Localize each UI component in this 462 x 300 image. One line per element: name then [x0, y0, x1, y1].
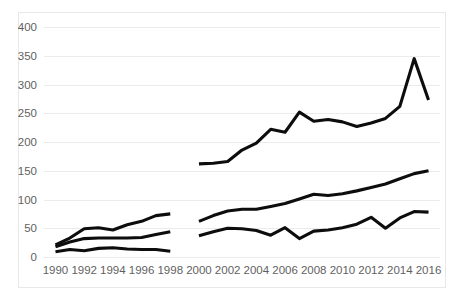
x-tick-label-2000: 2000: [186, 264, 212, 276]
x-tick-label-2006: 2006: [272, 264, 298, 276]
series-top-segment-2000-2016: [199, 59, 429, 164]
y-tick-label-0: 0: [31, 251, 37, 263]
x-axis-tick-labels: 1990199219941996199820002002200420062008…: [43, 264, 442, 276]
series-bottom-segment-1990-1998: [55, 248, 170, 252]
y-tick-label-150: 150: [18, 165, 37, 177]
x-tick-label-2008: 2008: [301, 264, 327, 276]
x-tick-label-2010: 2010: [330, 264, 356, 276]
y-axis-tick-labels: 050100150200250300350400: [18, 21, 37, 263]
x-tick-label-1998: 1998: [157, 264, 183, 276]
x-tick-label-1992: 1992: [71, 264, 97, 276]
x-tick-label-2004: 2004: [244, 264, 270, 276]
x-tick-label-1996: 1996: [129, 264, 155, 276]
line-chart: 050100150200250300350400 199019921994199…: [0, 0, 462, 300]
y-tick-label-200: 200: [18, 136, 37, 148]
y-tick-label-100: 100: [18, 194, 37, 206]
chart-container: 050100150200250300350400 199019921994199…: [0, 0, 462, 300]
y-tick-label-300: 300: [18, 79, 37, 91]
x-tick-label-1990: 1990: [43, 264, 69, 276]
y-tick-label-350: 350: [18, 50, 37, 62]
x-tick-label-1994: 1994: [100, 264, 126, 276]
series-lines: [55, 59, 428, 252]
x-tick-label-2012: 2012: [358, 264, 384, 276]
x-tick-label-2002: 2002: [215, 264, 241, 276]
series-middle-segment-1990-1998: [55, 232, 170, 247]
x-tick-label-2014: 2014: [387, 264, 413, 276]
series-bottom-segment-2000-2016: [199, 212, 429, 239]
y-tick-label-400: 400: [18, 21, 37, 33]
y-tick-label-50: 50: [24, 222, 37, 234]
x-tick-label-2016: 2016: [416, 264, 442, 276]
y-tick-label-250: 250: [18, 107, 37, 119]
series-middle-segment-2000-2016: [199, 171, 429, 222]
